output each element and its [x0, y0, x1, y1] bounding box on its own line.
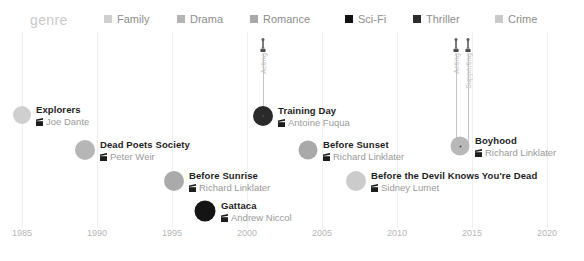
- film-director-row: Antoine Fuqua: [278, 117, 350, 129]
- film-director-name: Joe Dante: [46, 116, 89, 128]
- x-axis: 19851990199520002005201020152020: [0, 228, 584, 248]
- x-axis-tick-label: 2020: [537, 228, 557, 238]
- film-title: Training Day: [278, 105, 350, 116]
- gridline-1985: [22, 32, 23, 228]
- legend-item-label: Crime: [508, 13, 537, 25]
- legend-swatch-icon: [250, 15, 258, 23]
- plot-area: [0, 32, 584, 228]
- film-director-name: Antoine Fuqua: [288, 117, 350, 129]
- genre-legend: genre FamilyDramaRomanceSci-FiThrillerCr…: [0, 8, 584, 32]
- film-title: Before Sunrise: [189, 170, 270, 181]
- film-label-group[interactable]: BoyhoodRichard Linklater: [475, 135, 556, 159]
- timeline-chart: genre FamilyDramaRomanceSci-FiThrillerCr…: [0, 0, 584, 261]
- film-dot[interactable]: [299, 141, 318, 160]
- film-director-name: Peter Weir: [110, 151, 155, 163]
- film-label-group[interactable]: Before SunriseRichard Linklater: [189, 170, 270, 194]
- film-title: Gattaca: [221, 200, 292, 211]
- film-director-row: Peter Weir: [100, 151, 190, 163]
- film-director-name: Sidney Lumet: [381, 182, 439, 194]
- film-director-row: Andrew Niccol: [221, 212, 292, 224]
- gridline-2005: [322, 32, 323, 228]
- legend-swatch-icon: [104, 15, 112, 23]
- legend-item-crime[interactable]: Crime: [495, 13, 537, 25]
- film-dot[interactable]: [253, 106, 273, 126]
- film-dot[interactable]: [346, 171, 366, 191]
- x-axis-tick-label: 1985: [12, 228, 32, 238]
- legend-item-label: Family: [117, 13, 149, 25]
- gridline-1990: [97, 32, 98, 228]
- legend-swatch-icon: [495, 15, 503, 23]
- x-axis-tick-label: 1990: [87, 228, 107, 238]
- legend-item-label: Sci-Fi: [358, 13, 386, 25]
- clapperboard-icon: [475, 149, 482, 157]
- clapperboard-icon: [36, 118, 43, 126]
- award-category-label: Supporting: [465, 53, 472, 89]
- film-director-row: Joe Dante: [36, 116, 89, 128]
- legend-item-label: Drama: [190, 13, 223, 25]
- oscar-statuette-icon: [452, 38, 461, 52]
- legend-item-thriller[interactable]: Thriller: [413, 13, 460, 25]
- film-label-group[interactable]: ExplorersJoe Dante: [36, 104, 89, 128]
- film-dot[interactable]: [13, 106, 31, 124]
- gridline-2000: [247, 32, 248, 228]
- oscar-statuette-icon: [259, 38, 268, 52]
- x-axis-tick-label: 2015: [462, 228, 482, 238]
- legend-item-sci-fi[interactable]: Sci-Fi: [345, 13, 386, 25]
- film-dot[interactable]: [75, 140, 95, 160]
- legend-item-label: Thriller: [426, 13, 460, 25]
- legend-swatch-icon: [413, 15, 421, 23]
- legend-item-label: Romance: [263, 13, 310, 25]
- film-title: Explorers: [36, 104, 89, 115]
- film-label-group[interactable]: Before SunsetRichard Linklater: [323, 139, 404, 163]
- clapperboard-icon: [221, 214, 228, 222]
- legend-swatch-icon: [345, 15, 353, 23]
- film-title: Before the Devil Knows You're Dead: [371, 170, 537, 181]
- x-axis-tick-label: 1995: [162, 228, 182, 238]
- clapperboard-icon: [323, 153, 330, 161]
- clapperboard-icon: [100, 153, 107, 161]
- film-director-name: Richard Linklater: [333, 151, 404, 163]
- film-title: Dead Poets Society: [100, 139, 190, 150]
- award-category-label: Acting: [260, 53, 267, 74]
- film-director-row: Richard Linklater: [323, 151, 404, 163]
- film-title: Before Sunset: [323, 139, 404, 150]
- film-dot[interactable]: [195, 201, 216, 222]
- film-label-group[interactable]: Training DayAntoine Fuqua: [278, 105, 350, 129]
- gridline-2020: [547, 32, 548, 228]
- film-director-name: Andrew Niccol: [231, 212, 292, 224]
- x-axis-tick-label: 2010: [387, 228, 407, 238]
- gridline-2015: [472, 32, 473, 228]
- film-director-row: Richard Linklater: [475, 147, 556, 159]
- legend-item-family[interactable]: Family: [104, 13, 149, 25]
- film-label-group[interactable]: Dead Poets SocietyPeter Weir: [100, 139, 190, 163]
- legend-item-romance[interactable]: Romance: [250, 13, 310, 25]
- dot-center-marker: [262, 115, 264, 117]
- x-axis-tick-label: 2000: [237, 228, 257, 238]
- film-dot[interactable]: [451, 137, 470, 156]
- film-director-row: Richard Linklater: [189, 182, 270, 194]
- film-dot[interactable]: [164, 171, 184, 191]
- dot-center-marker: [459, 145, 461, 147]
- x-axis-tick-label: 2005: [312, 228, 332, 238]
- legend-title: genre: [30, 12, 68, 28]
- film-director-name: Richard Linklater: [199, 182, 270, 194]
- film-director-row: Sidney Lumet: [371, 182, 537, 194]
- legend-swatch-icon: [177, 15, 185, 23]
- film-director-name: Richard Linklater: [485, 147, 556, 159]
- clapperboard-icon: [189, 184, 196, 192]
- film-title: Boyhood: [475, 135, 556, 146]
- clapperboard-icon: [278, 119, 285, 127]
- gridline-1995: [172, 32, 173, 228]
- oscar-statuette-icon: [464, 38, 473, 52]
- film-label-group[interactable]: GattacaAndrew Niccol: [221, 200, 292, 224]
- gridline-2010: [397, 32, 398, 228]
- clapperboard-icon: [371, 184, 378, 192]
- film-label-group[interactable]: Before the Devil Knows You're DeadSidney…: [371, 170, 537, 194]
- award-category-label: Acting: [453, 53, 460, 74]
- legend-item-drama[interactable]: Drama: [177, 13, 223, 25]
